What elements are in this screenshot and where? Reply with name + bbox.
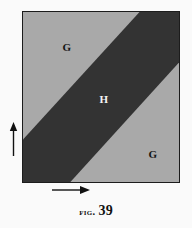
diagram-square: G H G [22, 11, 180, 183]
figure-caption: Fig.39 [0, 201, 192, 219]
figure-container: G H G Fig.39 [0, 0, 192, 228]
arrow-up-icon [8, 122, 19, 156]
caption-number: 39 [98, 203, 112, 218]
diagram-regions-svg [23, 12, 179, 182]
caption-prefix: Fig. [79, 206, 95, 217]
arrow-right-icon [52, 183, 90, 197]
